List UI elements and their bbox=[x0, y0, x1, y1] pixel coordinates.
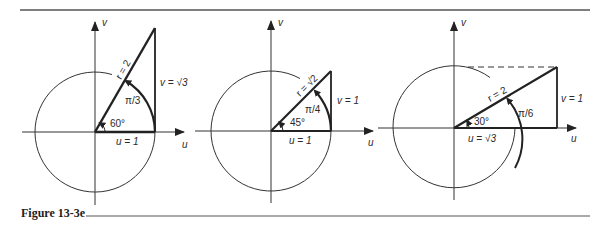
arc-pi-3 bbox=[126, 81, 155, 132]
panel-60-diagram bbox=[22, 22, 184, 205]
figure-caption: Figure 13-3e bbox=[21, 206, 85, 221]
panel-30-diagram bbox=[378, 22, 576, 200]
v-axis-label: v bbox=[278, 17, 284, 28]
angle-deg-label: 60° bbox=[110, 118, 125, 129]
angle-arc bbox=[280, 123, 284, 132]
angle-rad-label: π/6 bbox=[518, 108, 534, 119]
hypotenuse bbox=[95, 28, 155, 132]
angle-arc bbox=[100, 123, 105, 132]
u-axis-label: u bbox=[571, 133, 577, 144]
v-value-label: v = 1 bbox=[561, 93, 583, 104]
u-axis-label: u bbox=[368, 137, 374, 148]
u-value-label: u = 1 bbox=[116, 136, 139, 147]
v-value-label: v = 1 bbox=[337, 95, 359, 106]
hypotenuse bbox=[454, 67, 557, 128]
u-value-label: u = 1 bbox=[289, 135, 312, 146]
radius-label: r = 2 bbox=[486, 84, 509, 104]
u-value-label: u = √3 bbox=[468, 133, 496, 144]
v-axis-label: v bbox=[461, 17, 467, 28]
figure-canvas: v u r = 2 π/3 60° u = 1 v = √3 v u r = √… bbox=[0, 0, 603, 226]
v-axis-label: v bbox=[102, 17, 108, 28]
angle-deg-label: 45° bbox=[290, 117, 305, 128]
angle-rad-label: π/4 bbox=[305, 104, 321, 115]
u-axis-label: u bbox=[182, 139, 188, 150]
v-value-label: v = √3 bbox=[160, 77, 188, 88]
angle-rad-label: π/3 bbox=[125, 95, 141, 106]
angle-deg-label: 30° bbox=[474, 116, 489, 127]
panel-45-diagram bbox=[195, 21, 373, 203]
